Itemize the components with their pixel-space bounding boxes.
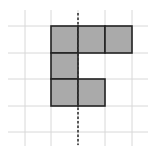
shaded-shape [51,26,132,106]
grid-diagram [0,0,154,151]
shaded-cell [51,53,78,79]
shaded-cell [78,26,105,53]
shaded-cell [51,26,78,53]
diagram-canvas [0,0,154,151]
shaded-cell [78,79,105,106]
shaded-cell [105,26,132,53]
shaded-cell [51,79,78,106]
